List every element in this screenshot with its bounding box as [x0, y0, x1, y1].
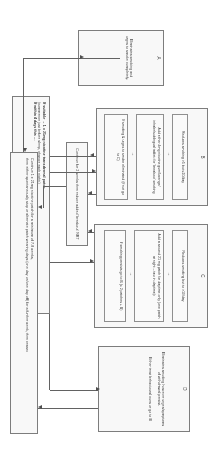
maintenance-box: Continue 1 x 21mg nicotine patch for a m… [10, 152, 38, 434]
branch-d-box: D Eliminates smoking however urges/sympt… [98, 346, 190, 432]
maintenance-line1: Continue 1 x 21mg nicotine patch for a m… [29, 158, 34, 428]
branch-c-step-3: If smoking persists go to B (≤ 2 patches… [104, 230, 126, 322]
connector-b-down-arrowhead-icon [90, 153, 94, 157]
connector-continue-to-maintenance [43, 186, 44, 208]
connector-spine-right-run [49, 314, 50, 390]
connector-continue-down [44, 186, 66, 187]
connector-a-to-maintenance [23, 58, 24, 152]
connector-spine-to-d-arrowhead-icon [96, 387, 100, 391]
connector-continue-to-maintenance-arrowhead-icon [38, 205, 42, 209]
branch-a-letter: A [155, 34, 161, 82]
branch-d-letter: D [181, 350, 187, 428]
connector-b-to-continue-arrowhead-icon [88, 191, 92, 195]
connector-spine-to-b [50, 172, 96, 173]
branch-b-step-3: If smoking & urges to smoke eliminated (… [104, 114, 128, 200]
maintenance-line2: then either spontaneously stop or altern… [25, 158, 30, 428]
connector-c-to-continue-arrowhead-icon [88, 229, 92, 233]
branch-b-letter: B [199, 112, 205, 202]
branch-c-step-2: Add a second 21 mg patch for daytime onl… [134, 230, 164, 322]
connector-spine-to-c [50, 262, 94, 263]
diagram-canvas: If suitable → 1 x 21mg nicotine transder… [0, 0, 216, 461]
branch-b-step-1: Reduces smoking >5 but ≤10/day [172, 114, 188, 200]
connector-spine-to-c-arrowhead-icon [90, 259, 94, 263]
connector-a-down [24, 58, 78, 59]
branch-c-arrow-2-icon: → [129, 272, 133, 276]
connector-start-to-a-arrowhead-icon [80, 55, 84, 59]
branch-c-step-1: Reduces smoking but to >10/day [172, 230, 188, 322]
connector-spine-to-b-arrowhead-icon [92, 169, 96, 173]
connector-d-to-maintenance-arrowhead-icon [38, 405, 42, 409]
connector-d-down [38, 408, 98, 409]
diagram-stage: If suitable → 1 x 21mg nicotine transder… [0, 0, 216, 461]
continue-two-weeks-text: Continue for 2 weeks then reduce added '… [75, 148, 80, 239]
connector-spine-to-d [50, 390, 98, 391]
continue-two-weeks-box: Continue for 2 weeks then reduce added '… [66, 142, 88, 246]
branch-b-step-2: Add either 4mg nicotine gum/lozenge/ inh… [136, 114, 164, 200]
connector-a-to-maintenance-arrowhead-icon [23, 148, 27, 152]
branch-d-text-2: Either treat behavioural cues or go to B [147, 350, 152, 428]
branch-c-arrow-1-icon: → [167, 272, 171, 276]
branch-b-arrow-1-icon: → [167, 152, 171, 156]
branch-d-text-1: Eliminates smoking however urges/symptom… [156, 350, 165, 428]
branch-a-text-2: urges to smoke completely. [124, 34, 129, 82]
branch-a-text: Eliminates smoking and [129, 34, 134, 82]
branch-b-arrow-2-icon: → [131, 152, 135, 156]
branch-c-letter: C [199, 228, 205, 324]
